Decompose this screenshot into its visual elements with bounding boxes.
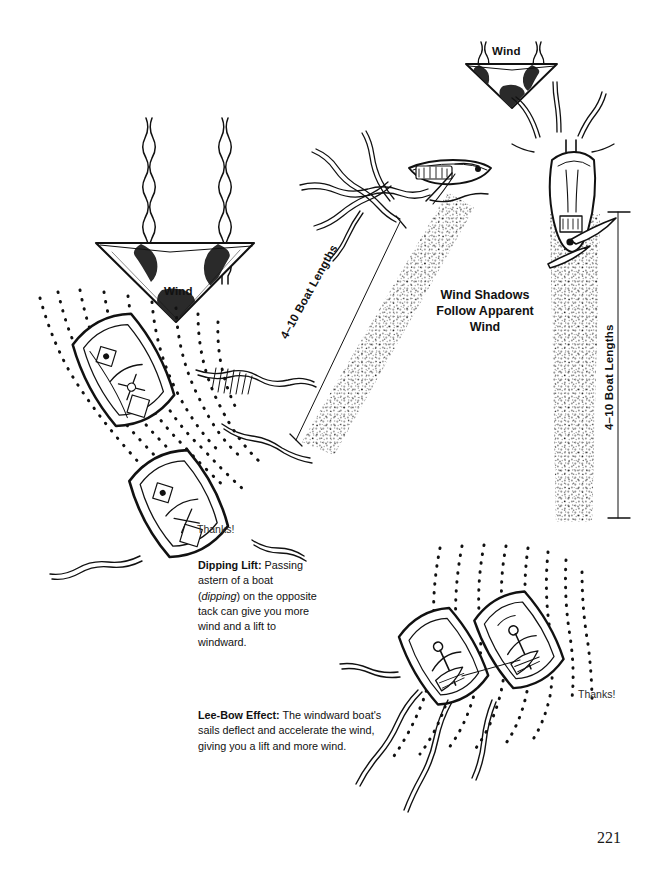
boats-lee-bow-figure xyxy=(340,545,592,812)
caption-dipping-emph: dipping xyxy=(202,590,237,602)
thanks-label-left: Thanks! xyxy=(197,523,234,535)
wind-label-left: Wind xyxy=(164,285,193,297)
wind-arrow-left xyxy=(96,118,254,330)
page-canvas: Wind Wind Wind Shadows Follow Apparent W… xyxy=(0,0,654,877)
caption-lee-bow-effect: Lee-Bow Effect: The windward boat's sail… xyxy=(198,708,383,754)
caption-dipping-lift: Dipping Lift: Passing astern of a boat (… xyxy=(198,558,318,650)
thanks-label-right: Thanks! xyxy=(578,688,615,700)
wind-shadows-note: Wind Shadows Follow Apparent Wind xyxy=(405,288,565,336)
boats-dipping-figure xyxy=(40,290,316,579)
page-number: 221 xyxy=(597,829,621,847)
boat-lengths-label-right: 4–10 Boat Lengths xyxy=(603,324,615,430)
wind-shadows-note-line1: Wind Shadows xyxy=(405,288,565,304)
wind-shadows-note-line3: Wind xyxy=(405,320,565,336)
wind-shadows-note-line2: Follow Apparent xyxy=(405,304,565,320)
caption-dipping-title: Dipping Lift: xyxy=(198,559,262,571)
wind-label-top: Wind xyxy=(492,45,521,57)
caption-lee-bow-title: Lee-Bow Effect: xyxy=(198,709,280,721)
boat-lengths-label-left: 4–10 Boat Lengths xyxy=(278,195,366,341)
